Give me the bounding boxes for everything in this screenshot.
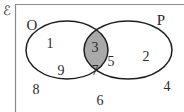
venn-diagram: ℰ O P 1 9 8 3 7 5 2 4 6 xyxy=(0,0,184,112)
element-5: 5 xyxy=(108,55,115,69)
element-7: 7 xyxy=(92,64,99,78)
element-8: 8 xyxy=(33,83,40,97)
element-1: 1 xyxy=(47,37,54,51)
element-4: 4 xyxy=(164,80,171,94)
element-3: 3 xyxy=(92,41,99,55)
set-p-label: P xyxy=(157,13,165,28)
set-o-label: O xyxy=(27,18,38,33)
element-6: 6 xyxy=(97,94,104,108)
element-2: 2 xyxy=(143,50,150,64)
element-9: 9 xyxy=(58,64,65,78)
universal-set-symbol: ℰ xyxy=(3,4,11,17)
